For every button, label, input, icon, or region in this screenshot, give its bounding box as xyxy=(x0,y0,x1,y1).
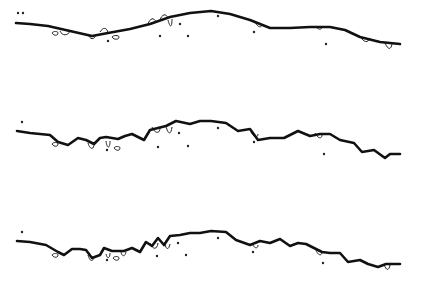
contour-loop xyxy=(112,36,119,40)
particle-dot xyxy=(106,259,108,261)
profile-rough xyxy=(17,231,400,270)
profile-medium xyxy=(17,121,400,158)
particle-dot xyxy=(177,242,179,244)
surface-profile-figure xyxy=(0,0,422,288)
particle-dot xyxy=(217,237,219,239)
particle-dot xyxy=(156,255,158,257)
particle-dot xyxy=(159,35,161,37)
contour-loop xyxy=(52,32,58,36)
particle-dot xyxy=(106,149,108,151)
contour-loop xyxy=(52,143,58,147)
particle-dot xyxy=(157,146,159,148)
contour-loop xyxy=(106,253,110,258)
contour-loop xyxy=(114,147,120,151)
contour-loop xyxy=(166,126,172,133)
profile-line xyxy=(17,121,400,158)
particle-dot xyxy=(22,12,24,14)
contour-loop xyxy=(121,252,126,256)
contour-loop xyxy=(106,141,110,147)
contour-loop xyxy=(168,19,172,26)
particle-dot xyxy=(252,251,254,253)
particle-dot xyxy=(253,141,255,143)
particle-dot xyxy=(187,35,189,37)
contour-loop xyxy=(52,254,58,258)
particle-dot xyxy=(217,127,219,129)
profiles-canvas xyxy=(0,0,422,288)
profile-line xyxy=(17,231,400,267)
particle-dot xyxy=(217,15,219,17)
particle-dot xyxy=(179,23,181,25)
particle-dot xyxy=(323,153,325,155)
particle-dot xyxy=(107,40,109,42)
particle-dot xyxy=(21,231,23,233)
particle-dot xyxy=(325,43,327,45)
contour-loop xyxy=(113,257,119,261)
particle-dot xyxy=(185,254,187,256)
particle-dot xyxy=(187,145,189,147)
particle-dot xyxy=(322,262,324,264)
particle-dot xyxy=(178,132,180,134)
profile-line xyxy=(16,11,400,44)
particle-dot xyxy=(17,12,19,14)
particle-dot xyxy=(253,31,255,33)
particle-dot xyxy=(21,121,23,123)
profile-smooth xyxy=(16,11,400,48)
